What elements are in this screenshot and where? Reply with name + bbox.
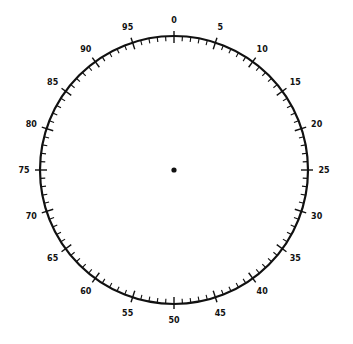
- minor-tick: [302, 153, 307, 154]
- minor-tick: [190, 37, 191, 42]
- dial-label: 10: [257, 45, 269, 54]
- dial-label: 95: [122, 23, 134, 32]
- minor-tick: [283, 239, 287, 242]
- minor-tick: [302, 186, 307, 187]
- dial-label: 35: [290, 254, 302, 263]
- dial-label: 30: [311, 212, 323, 221]
- minor-tick: [109, 283, 111, 287]
- minor-tick: [82, 72, 85, 76]
- dial-label: 65: [47, 254, 59, 263]
- minor-tick: [76, 78, 80, 81]
- minor-tick: [57, 232, 61, 234]
- minor-tick: [71, 252, 75, 255]
- dial-label: 5: [218, 23, 224, 32]
- minor-tick: [256, 67, 259, 71]
- minor-tick: [243, 57, 246, 61]
- minor-tick: [89, 269, 92, 273]
- minor-tick: [76, 258, 80, 261]
- dial-label: 0: [171, 16, 177, 25]
- circular-dial-scale: 05101520253035404550556065707580859095: [0, 0, 353, 344]
- minor-tick: [243, 279, 246, 283]
- minor-tick: [287, 232, 291, 234]
- minor-tick: [283, 98, 287, 101]
- dial-label: 70: [26, 212, 38, 221]
- minor-tick: [61, 239, 65, 242]
- dial-label: 90: [80, 45, 92, 54]
- dial-label: 80: [26, 120, 38, 129]
- minor-tick: [287, 105, 291, 107]
- dial-label: 85: [47, 78, 59, 87]
- minor-tick: [236, 53, 238, 57]
- minor-tick: [268, 78, 272, 81]
- dial-label: 20: [311, 120, 323, 129]
- minor-tick: [262, 72, 265, 76]
- minor-tick: [89, 67, 92, 71]
- minor-tick: [61, 98, 65, 101]
- dial-label: 45: [215, 309, 227, 318]
- minor-tick: [82, 264, 85, 268]
- minor-tick: [41, 153, 46, 154]
- minor-tick: [236, 283, 238, 287]
- dial-label: 75: [18, 166, 30, 175]
- minor-tick: [102, 57, 105, 61]
- dial-label: 50: [168, 316, 180, 325]
- minor-tick: [102, 279, 105, 283]
- minor-tick: [190, 298, 191, 303]
- dial-label: 60: [80, 287, 92, 296]
- dial-label: 25: [318, 166, 330, 175]
- minor-tick: [41, 186, 46, 187]
- minor-tick: [157, 37, 158, 42]
- minor-tick: [256, 269, 259, 273]
- minor-tick: [273, 85, 277, 88]
- minor-tick: [262, 264, 265, 268]
- dial-label: 15: [290, 78, 302, 87]
- minor-tick: [273, 252, 277, 255]
- dial-label: 55: [122, 309, 134, 318]
- minor-tick: [109, 53, 111, 57]
- minor-tick: [71, 85, 75, 88]
- minor-tick: [157, 298, 158, 303]
- dial-label: 40: [257, 287, 269, 296]
- center-dot: [171, 167, 176, 172]
- minor-tick: [57, 105, 61, 107]
- minor-tick: [268, 258, 272, 261]
